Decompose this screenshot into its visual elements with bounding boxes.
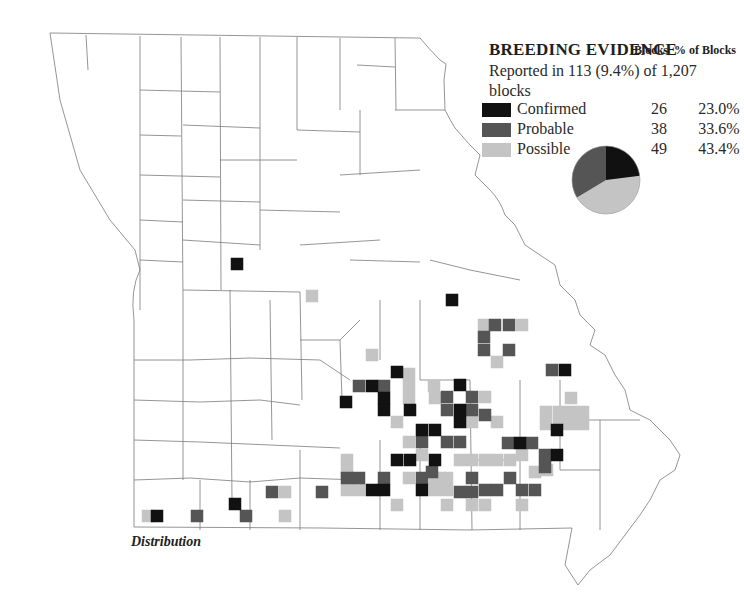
possible-block (491, 356, 504, 369)
possible-block (441, 472, 454, 485)
probable-block (441, 436, 454, 449)
confirmed-block (429, 424, 442, 437)
possible-block (391, 416, 404, 429)
possible-block (466, 416, 479, 429)
confirmed-block (404, 454, 417, 467)
legend-count: 49 (644, 140, 674, 158)
possible-block (403, 436, 416, 449)
confirmed-swatch (482, 103, 511, 117)
possible-block (478, 319, 491, 332)
legend-subtitle: Reported in 113 (9.4%) of 1,207 blocks (489, 61, 729, 101)
possible-block (391, 499, 404, 512)
possible-block (279, 486, 292, 499)
possible-block (540, 418, 553, 431)
confirmed-block (404, 404, 417, 417)
confirmed-block (366, 484, 379, 497)
confirmed-block (378, 392, 391, 405)
possible-block (441, 484, 454, 497)
possible-block (540, 406, 553, 419)
confirmed-block (429, 454, 442, 467)
confirmed-block (559, 364, 572, 377)
confirmed-block (231, 258, 244, 271)
legend-pct: 33.6% (689, 120, 744, 138)
confirmed-block (551, 424, 564, 437)
probable-block (478, 331, 491, 344)
possible-block (306, 290, 319, 303)
confirmed-block (454, 404, 467, 417)
probable-block (503, 319, 516, 332)
possible-block (491, 454, 504, 467)
confirmed-block (514, 437, 527, 450)
possible-block (504, 454, 517, 467)
probable-block (466, 486, 479, 499)
possible-block (403, 368, 416, 381)
confirmed-block (454, 416, 467, 429)
possible-block (441, 499, 454, 512)
probable-block (454, 436, 467, 449)
legend-label: Probable (517, 120, 574, 138)
probable-block (466, 404, 479, 417)
probable-block (191, 510, 204, 523)
probable-block (479, 484, 492, 497)
probable-block (378, 380, 391, 393)
confirmed-block (416, 424, 429, 437)
possible-block (416, 449, 429, 462)
confirmed-block (378, 404, 391, 417)
confirmed-block (551, 449, 564, 462)
possible-block (429, 392, 442, 405)
possible-block (403, 472, 416, 485)
possible-block (479, 454, 492, 467)
probable-block (489, 319, 502, 332)
possible-block (565, 392, 578, 405)
col-header-pct: % of Blocks (674, 43, 736, 58)
confirmed-block (454, 379, 467, 392)
confirmed-block (391, 454, 404, 467)
confirmed-block (340, 396, 353, 409)
possible-block (466, 454, 479, 467)
confirmed-block (446, 294, 459, 307)
probable-block (539, 449, 552, 462)
map-caption: Distribution (131, 534, 201, 550)
probable-block (316, 486, 329, 499)
probable-block (478, 344, 491, 357)
possible-block (577, 418, 590, 431)
confirmed-block (391, 366, 404, 379)
probable-block (266, 486, 279, 499)
possible-block (428, 380, 441, 393)
possible-block (279, 510, 292, 523)
probable-block (503, 344, 516, 357)
pie-chart (572, 146, 640, 214)
confirmed-block (378, 484, 391, 497)
confirmed-block (151, 510, 164, 523)
possible-block (341, 454, 354, 467)
legend-label: Confirmed (517, 100, 586, 118)
probable-block (504, 472, 517, 485)
probable-block (353, 380, 366, 393)
probable-block (502, 437, 515, 450)
probable-block (526, 437, 539, 450)
possible-block (479, 391, 492, 404)
probable-block (378, 472, 391, 485)
confirmed-block (366, 380, 379, 393)
possible-block (491, 416, 504, 429)
probable-block (516, 484, 529, 497)
possible-swatch (482, 143, 511, 157)
probable-block (466, 391, 479, 404)
probable-block (546, 364, 559, 377)
probable-block (353, 472, 366, 485)
possible-block (577, 406, 590, 419)
possible-block (403, 392, 416, 405)
probable-block (479, 409, 492, 422)
probable-block (441, 404, 454, 417)
probable-block (416, 436, 429, 449)
probable-block (466, 472, 479, 485)
possible-block (553, 406, 566, 419)
block-cells (142, 258, 590, 523)
possible-block (454, 454, 467, 467)
col-header-blocks: Blocks (634, 43, 668, 58)
legend-count: 38 (644, 120, 674, 138)
possible-block (429, 484, 442, 497)
probable-block (240, 510, 253, 523)
probable-block (454, 486, 467, 499)
possible-block (516, 499, 529, 512)
